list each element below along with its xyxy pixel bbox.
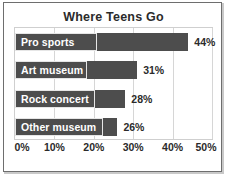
bar-row: Other museum26% (15, 118, 212, 136)
bar-category-label: Other museum (21, 121, 96, 133)
bar-category-label: Art museum (21, 64, 83, 76)
x-axis-tick-labels: 0%10%20%30%40%50% (14, 141, 213, 157)
bar-value-label: 28% (131, 90, 152, 108)
x-tick-label: 0% (14, 141, 29, 153)
bar-value-label: 44% (194, 33, 215, 51)
x-tick-label: 30% (123, 141, 144, 153)
bar-row: Rock concert28% (15, 90, 212, 108)
bars-layer: Pro sports44%Art museum31%Rock concert28… (15, 28, 212, 139)
bar-row: Pro sports44% (15, 33, 212, 51)
plot-area: Pro sports44%Art museum31%Rock concert28… (14, 27, 213, 140)
bar-label-box: Rock concert (15, 90, 95, 108)
bar-category-label: Rock concert (21, 93, 89, 105)
bar-value-label: 26% (123, 118, 144, 136)
chart-frame: Where Teens Go Pro sports44%Art museum31… (3, 2, 222, 172)
bar-row: Art museum31% (15, 61, 212, 79)
chart-title: Where Teens Go (4, 10, 223, 24)
x-tick-label: 50% (195, 141, 216, 153)
x-tick-label: 40% (162, 141, 183, 153)
bar-label-box: Pro sports (15, 33, 97, 51)
x-tick-label: 10% (44, 141, 65, 153)
bar-category-label: Pro sports (21, 36, 75, 48)
bar-label-box: Other museum (15, 118, 103, 136)
bar-value-label: 31% (143, 61, 164, 79)
x-tick-label: 20% (83, 141, 104, 153)
bar-label-box: Art museum (15, 61, 87, 79)
